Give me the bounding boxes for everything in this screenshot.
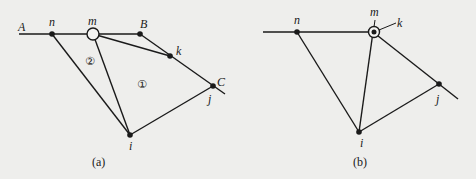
node-k-a [167, 53, 173, 59]
label-B: B [140, 17, 148, 31]
caption-a: (a) [92, 155, 105, 169]
figure-canvas: A n m B k C j i ② ① (a) n m k j i (b) [0, 0, 476, 179]
label-i-a: i [129, 139, 132, 153]
figure-b-labels: n m k j i (b) [294, 5, 440, 169]
label-j-a: j [206, 92, 212, 106]
edge-i-j-b [359, 84, 439, 132]
edge-m-i [93, 34, 130, 135]
figure-b-nodes [294, 27, 442, 135]
label-n-a: n [49, 15, 55, 29]
label-A: A [17, 20, 26, 34]
label-i-b: i [360, 136, 363, 150]
node-j-a [210, 83, 216, 89]
label-j-b: j [434, 92, 440, 106]
edge-m-i-b [359, 32, 373, 132]
diagram-svg: A n m B k C j i ② ① (a) n m k j i (b) [0, 0, 476, 179]
figure-b [263, 20, 458, 132]
edge-m-j-b [373, 32, 458, 99]
label-k-a: k [176, 44, 182, 58]
node-i-a [127, 132, 133, 138]
node-mk-b-dot [372, 30, 377, 35]
region-2-label: ② [85, 55, 95, 68]
caption-b: (b) [353, 155, 367, 169]
node-n-a [49, 31, 55, 37]
figure-a [19, 34, 225, 135]
label-m-a: m [88, 14, 97, 28]
node-n-b [294, 29, 300, 35]
figure-a-labels: A n m B k C j i ② ① (a) [17, 14, 226, 169]
region-1-label: ① [137, 78, 147, 91]
edge-i-j [130, 86, 213, 135]
edge-m-k [93, 34, 170, 56]
node-j-b [436, 81, 442, 87]
node-m-a-hollow [87, 28, 99, 40]
label-C: C [217, 75, 226, 89]
label-n-b: n [294, 13, 300, 27]
leader-k-b [379, 23, 396, 30]
edge-n-i-b [297, 32, 359, 132]
edge-n-i [52, 34, 130, 135]
label-m-b: m [370, 5, 379, 19]
figure-a-nodes [49, 28, 216, 138]
label-k-b: k [397, 16, 403, 30]
node-i-b [356, 129, 362, 135]
node-B [137, 31, 143, 37]
